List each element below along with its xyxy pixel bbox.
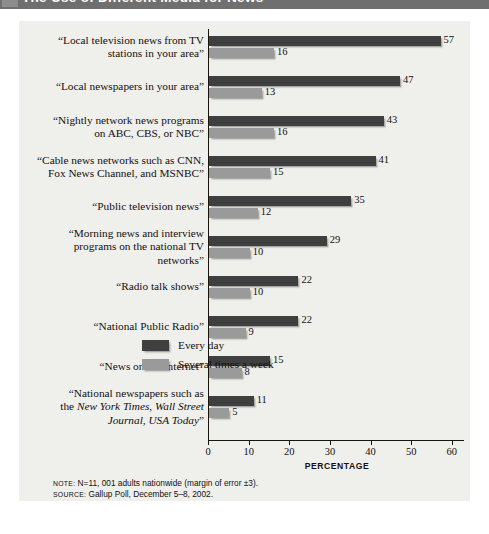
x-axis-tick-label: 0 xyxy=(205,446,210,457)
bar-every-day xyxy=(209,196,351,206)
bar-value-several-times-a-week: 13 xyxy=(265,87,276,97)
category-label: “Radio talk shows” xyxy=(19,280,204,293)
legend-label-every-day: Every day xyxy=(178,339,224,351)
bar-value-several-times-a-week: 15 xyxy=(273,167,284,177)
bar-value-every-day: 43 xyxy=(387,115,398,125)
note-text: N=11, 001 adults nationwide (margin of e… xyxy=(75,478,258,488)
header-band: The Use of Different Media for News xyxy=(0,0,489,9)
source-kicker: SOURCE: xyxy=(53,491,86,498)
bar-every-day xyxy=(209,236,327,246)
source-line: SOURCE: Gallup Poll, December 5–8, 2002. xyxy=(53,489,473,500)
x-axis-tick xyxy=(371,441,372,445)
category-label: “National newspapers such asthe New York… xyxy=(19,387,204,427)
bar-value-several-times-a-week: 10 xyxy=(253,247,264,257)
bar-every-day xyxy=(209,276,298,286)
note-line: NOTE: N=11, 001 adults nationwide (margi… xyxy=(53,478,473,489)
category-label: “Morning news and interviewprograms on t… xyxy=(19,227,204,267)
header-marker-icon xyxy=(2,0,18,7)
page-title: The Use of Different Media for News xyxy=(22,0,264,5)
x-axis-tick-label: 40 xyxy=(365,446,376,457)
category-label: “Local television news from TVstations i… xyxy=(19,34,204,60)
chart-panel: “Local television news from TVstations i… xyxy=(19,21,470,501)
x-axis-tick xyxy=(289,441,290,445)
legend-item-every-day: Every day xyxy=(142,339,277,355)
bar-value-every-day: 22 xyxy=(301,275,312,285)
bar-value-every-day: 57 xyxy=(444,35,455,45)
bar-every-day xyxy=(209,316,298,326)
category-label: “Public television news” xyxy=(19,200,204,213)
bar-several-times-a-week xyxy=(209,328,246,338)
bar-every-day xyxy=(209,396,254,406)
source-text: Gallup Poll, December 5–8, 2002. xyxy=(86,489,213,499)
bar-value-several-times-a-week: 16 xyxy=(277,127,288,137)
bar-several-times-a-week xyxy=(209,88,262,98)
x-axis-tick-label: 60 xyxy=(447,446,458,457)
legend-swatch-several-times-a-week xyxy=(142,359,169,370)
x-axis-tick xyxy=(208,441,209,445)
category-label: “Nightly network news programson ABC, CB… xyxy=(19,114,204,140)
bar-several-times-a-week xyxy=(209,168,270,178)
bar-several-times-a-week xyxy=(209,408,229,418)
x-axis-tick xyxy=(249,441,250,445)
legend-swatch-every-day xyxy=(142,340,169,351)
bar-several-times-a-week xyxy=(209,248,250,258)
bar-value-several-times-a-week: 16 xyxy=(277,47,288,57)
bar-every-day xyxy=(209,156,376,166)
x-axis-title: PERCENTAGE xyxy=(305,461,370,471)
bar-every-day xyxy=(209,36,441,46)
bar-value-every-day: 29 xyxy=(330,235,341,245)
category-label-column: “Local television news from TVstations i… xyxy=(19,21,208,501)
category-label: “Local newspapers in your area” xyxy=(19,80,204,93)
x-axis-tick xyxy=(411,441,412,445)
x-axis-tick-label: 10 xyxy=(243,446,254,457)
chart-legend: Every day Several times a week xyxy=(142,339,277,377)
bar-several-times-a-week xyxy=(209,208,258,218)
bar-every-day xyxy=(209,76,400,86)
plot-area: PERCENTAGE 01020304050605716471343164115… xyxy=(208,29,464,441)
chart-page: The Use of Different Media for News “Loc… xyxy=(0,0,489,534)
legend-item-several-times-a-week: Several times a week xyxy=(142,358,277,374)
note-kicker: NOTE: xyxy=(53,480,75,487)
x-axis-tick xyxy=(452,441,453,445)
bar-value-every-day: 22 xyxy=(301,315,312,325)
x-axis-tick-label: 20 xyxy=(284,446,295,457)
bar-value-every-day: 47 xyxy=(403,75,414,85)
bar-several-times-a-week xyxy=(209,128,274,138)
bar-several-times-a-week xyxy=(209,48,274,58)
bar-every-day xyxy=(209,116,384,126)
bar-value-every-day: 35 xyxy=(354,195,365,205)
category-label: “Cable news networks such as CNN,Fox New… xyxy=(19,154,204,180)
bar-value-several-times-a-week: 12 xyxy=(261,207,272,217)
x-axis-tick-label: 50 xyxy=(406,446,417,457)
bar-value-several-times-a-week: 10 xyxy=(253,287,264,297)
x-axis-tick-label: 30 xyxy=(325,446,336,457)
bar-value-several-times-a-week: 9 xyxy=(249,327,254,337)
bar-several-times-a-week xyxy=(209,288,250,298)
bar-value-every-day: 11 xyxy=(257,395,267,405)
x-axis-line xyxy=(208,440,464,441)
legend-label-several-times-a-week: Several times a week xyxy=(178,358,274,370)
bar-value-every-day: 41 xyxy=(379,155,390,165)
x-axis-tick xyxy=(330,441,331,445)
footnotes: NOTE: N=11, 001 adults nationwide (margi… xyxy=(53,478,473,501)
category-label: “National Public Radio” xyxy=(19,320,204,333)
bar-value-several-times-a-week: 5 xyxy=(232,407,237,417)
